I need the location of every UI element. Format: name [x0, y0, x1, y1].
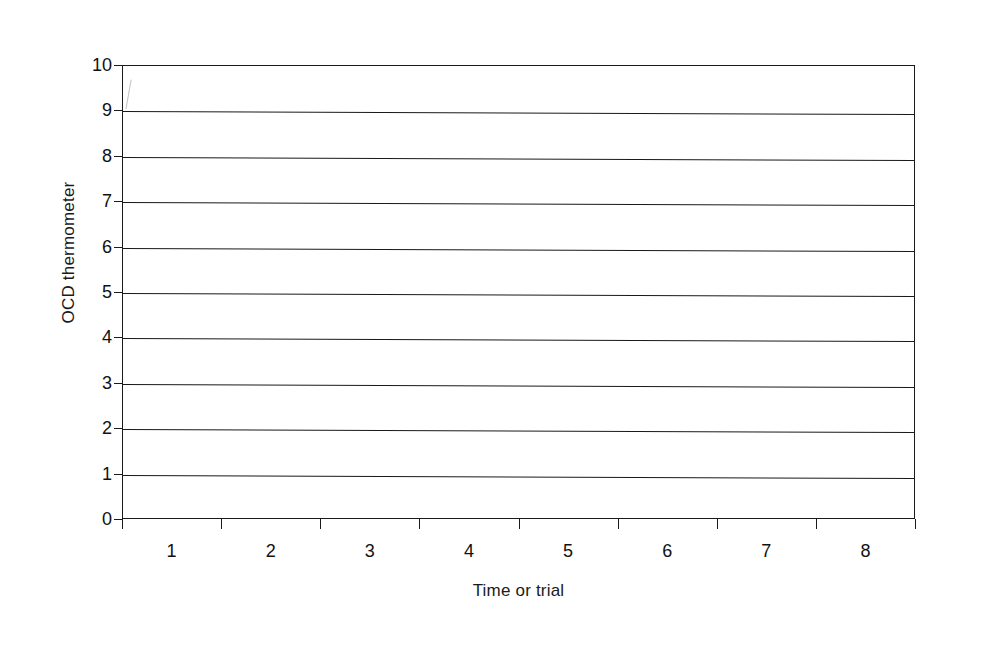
gridline [122, 338, 915, 342]
x-axis-tick [816, 519, 817, 529]
x-axis-tick-label: 4 [419, 538, 518, 564]
x-axis-tick [915, 519, 916, 529]
x-axis-tick-marks [122, 519, 915, 529]
x-axis-tick [419, 519, 420, 529]
x-axis-tick-labels: 12345678 [122, 538, 915, 564]
x-axis-tick-label: 3 [320, 538, 419, 564]
y-axis-tick-label: 3 [78, 372, 112, 394]
x-axis-tick [519, 519, 520, 529]
y-axis-tick-labels: 109876543210 [78, 65, 112, 519]
x-axis-tick-label: 8 [816, 538, 915, 564]
gridline [122, 157, 915, 161]
gridline [122, 475, 915, 479]
x-axis-tick [618, 519, 619, 529]
y-axis-tick-label: 8 [78, 145, 112, 167]
x-axis-tick-label: 1 [122, 538, 221, 564]
plot-area [122, 65, 915, 519]
gridline [122, 429, 915, 433]
y-axis-tick-label: 4 [78, 326, 112, 348]
x-axis-tick-label: 7 [717, 538, 816, 564]
x-axis-title: Time or trial [122, 578, 915, 604]
y-axis-tick-label: 9 [78, 99, 112, 121]
x-axis-tick-label: 2 [221, 538, 320, 564]
x-axis-tick [221, 519, 222, 529]
y-axis-tick-label: 6 [78, 236, 112, 258]
x-axis-tick [717, 519, 718, 529]
chart-figure: OCD thermometer 109876543210 12345678 Ti… [0, 0, 1007, 652]
y-axis-tick-label: 1 [78, 463, 112, 485]
y-axis-tick-label: 10 [78, 54, 112, 76]
x-axis-tick [320, 519, 321, 529]
y-axis-tick-label: 2 [78, 417, 112, 439]
gridlines [123, 66, 914, 518]
y-axis-tick-label: 5 [78, 281, 112, 303]
x-axis-tick-label: 5 [519, 538, 618, 564]
gridline [122, 293, 915, 297]
x-axis-tick [122, 519, 123, 529]
gridline [122, 111, 915, 115]
gridline [122, 202, 915, 206]
gridline [122, 248, 915, 252]
gridline [122, 384, 915, 388]
x-axis-tick-label: 6 [618, 538, 717, 564]
y-axis-tick-label: 7 [78, 190, 112, 212]
y-axis-tick-label: 0 [78, 508, 112, 530]
